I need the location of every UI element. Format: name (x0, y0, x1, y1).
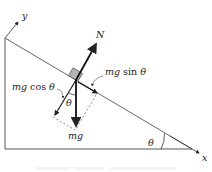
mg-sin-theta: θ (140, 66, 146, 77)
mg-sin-func: sin (120, 66, 140, 77)
weight-angle-label: θ (66, 97, 72, 108)
incline-triangle (5, 38, 192, 149)
mg-cos-func: cos (27, 81, 49, 92)
svg-text:mg sin θ: mg sin θ (105, 66, 146, 77)
x-axis-label: x (202, 152, 208, 163)
y-axis: y (5, 10, 28, 38)
svg-text:mg cos θ: mg cos θ (12, 81, 55, 92)
faint-caption (36, 167, 176, 170)
normal-force-label: N (95, 29, 105, 40)
mg-cos-theta: θ (49, 81, 55, 92)
y-axis-label: y (21, 10, 28, 21)
mg-sin-mg: mg (105, 66, 120, 77)
incline-angle-label: θ (148, 137, 154, 148)
weight-label: mg (68, 130, 83, 141)
incline-diagram: y x θ N mg θ m (0, 0, 212, 172)
parallel-component-arrow (78, 82, 97, 93)
normal-force-arrow: N (76, 29, 105, 80)
weight-angle: θ (66, 93, 76, 108)
mg-cos-mg: mg (12, 81, 27, 92)
mg-sin-theta-callout: mg sin θ (92, 66, 146, 86)
incline-angle: θ (148, 134, 165, 150)
mg-cos-theta-callout: mg cos θ (12, 81, 63, 98)
component-dashed-lines (53, 95, 96, 130)
